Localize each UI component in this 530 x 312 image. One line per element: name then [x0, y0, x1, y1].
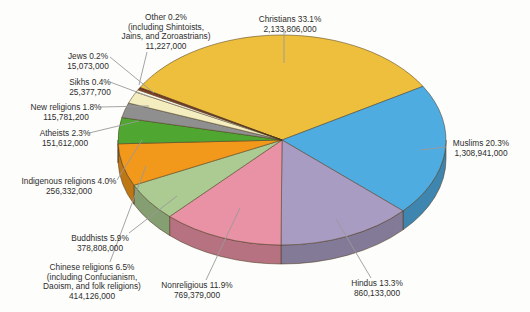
- slice-label-line: 860,133,000: [351, 289, 403, 299]
- slice-label-buddhists: Buddhists 5.9%378,808,000: [71, 234, 129, 253]
- slice-label-jews: Jews 0.2%15,073,000: [67, 52, 109, 71]
- slice-label-line: 378,808,000: [71, 244, 129, 254]
- slice-label-line: 2,133,806,000: [259, 25, 322, 35]
- world-religions-pie-figure: Christians 33.1%2,133,806,000Muslims 20.…: [0, 0, 530, 312]
- slice-label-line: 15,073,000: [67, 62, 109, 72]
- slice-label-hindus: Hindus 13.3%860,133,000: [351, 279, 403, 298]
- slice-label-other: Other 0.2%(including Shintoists,Jains, a…: [121, 13, 210, 51]
- slice-label-line: 769,379,000: [161, 291, 232, 301]
- slice-label-line: 256,332,000: [21, 187, 116, 197]
- slice-label-line: 151,612,000: [40, 139, 91, 149]
- slice-label-line: 414,126,000: [43, 292, 141, 302]
- slice-label-new-religions: New religions 1.8%115,781,200: [30, 103, 101, 122]
- slice-label-atheists: Atheists 2.3%151,612,000: [40, 129, 91, 148]
- slice-label-line: 1,308,941,000: [453, 149, 509, 159]
- slice-label-chinese-religions: Chinese religions 6.5%(including Confuci…: [43, 263, 141, 301]
- slice-label-line: 11,227,000: [121, 42, 210, 52]
- slice-label-nonreligious: Nonreligious 11.9%769,379,000: [161, 281, 232, 300]
- leader-line-jews: [110, 57, 154, 93]
- slice-label-line: 25,377,700: [69, 88, 111, 98]
- leader-line-other: [139, 52, 147, 85]
- slice-label-sikhs: Sikhs 0.4%25,377,700: [69, 78, 111, 97]
- slice-label-muslims: Muslims 20.3%1,308,941,000: [453, 139, 509, 158]
- slice-label-christians: Christians 33.1%2,133,806,000: [259, 15, 322, 34]
- slice-label-line: 115,781,200: [30, 113, 101, 123]
- slice-label-indigenous-religions: Indigenous religions 4.0%256,332,000: [21, 177, 116, 196]
